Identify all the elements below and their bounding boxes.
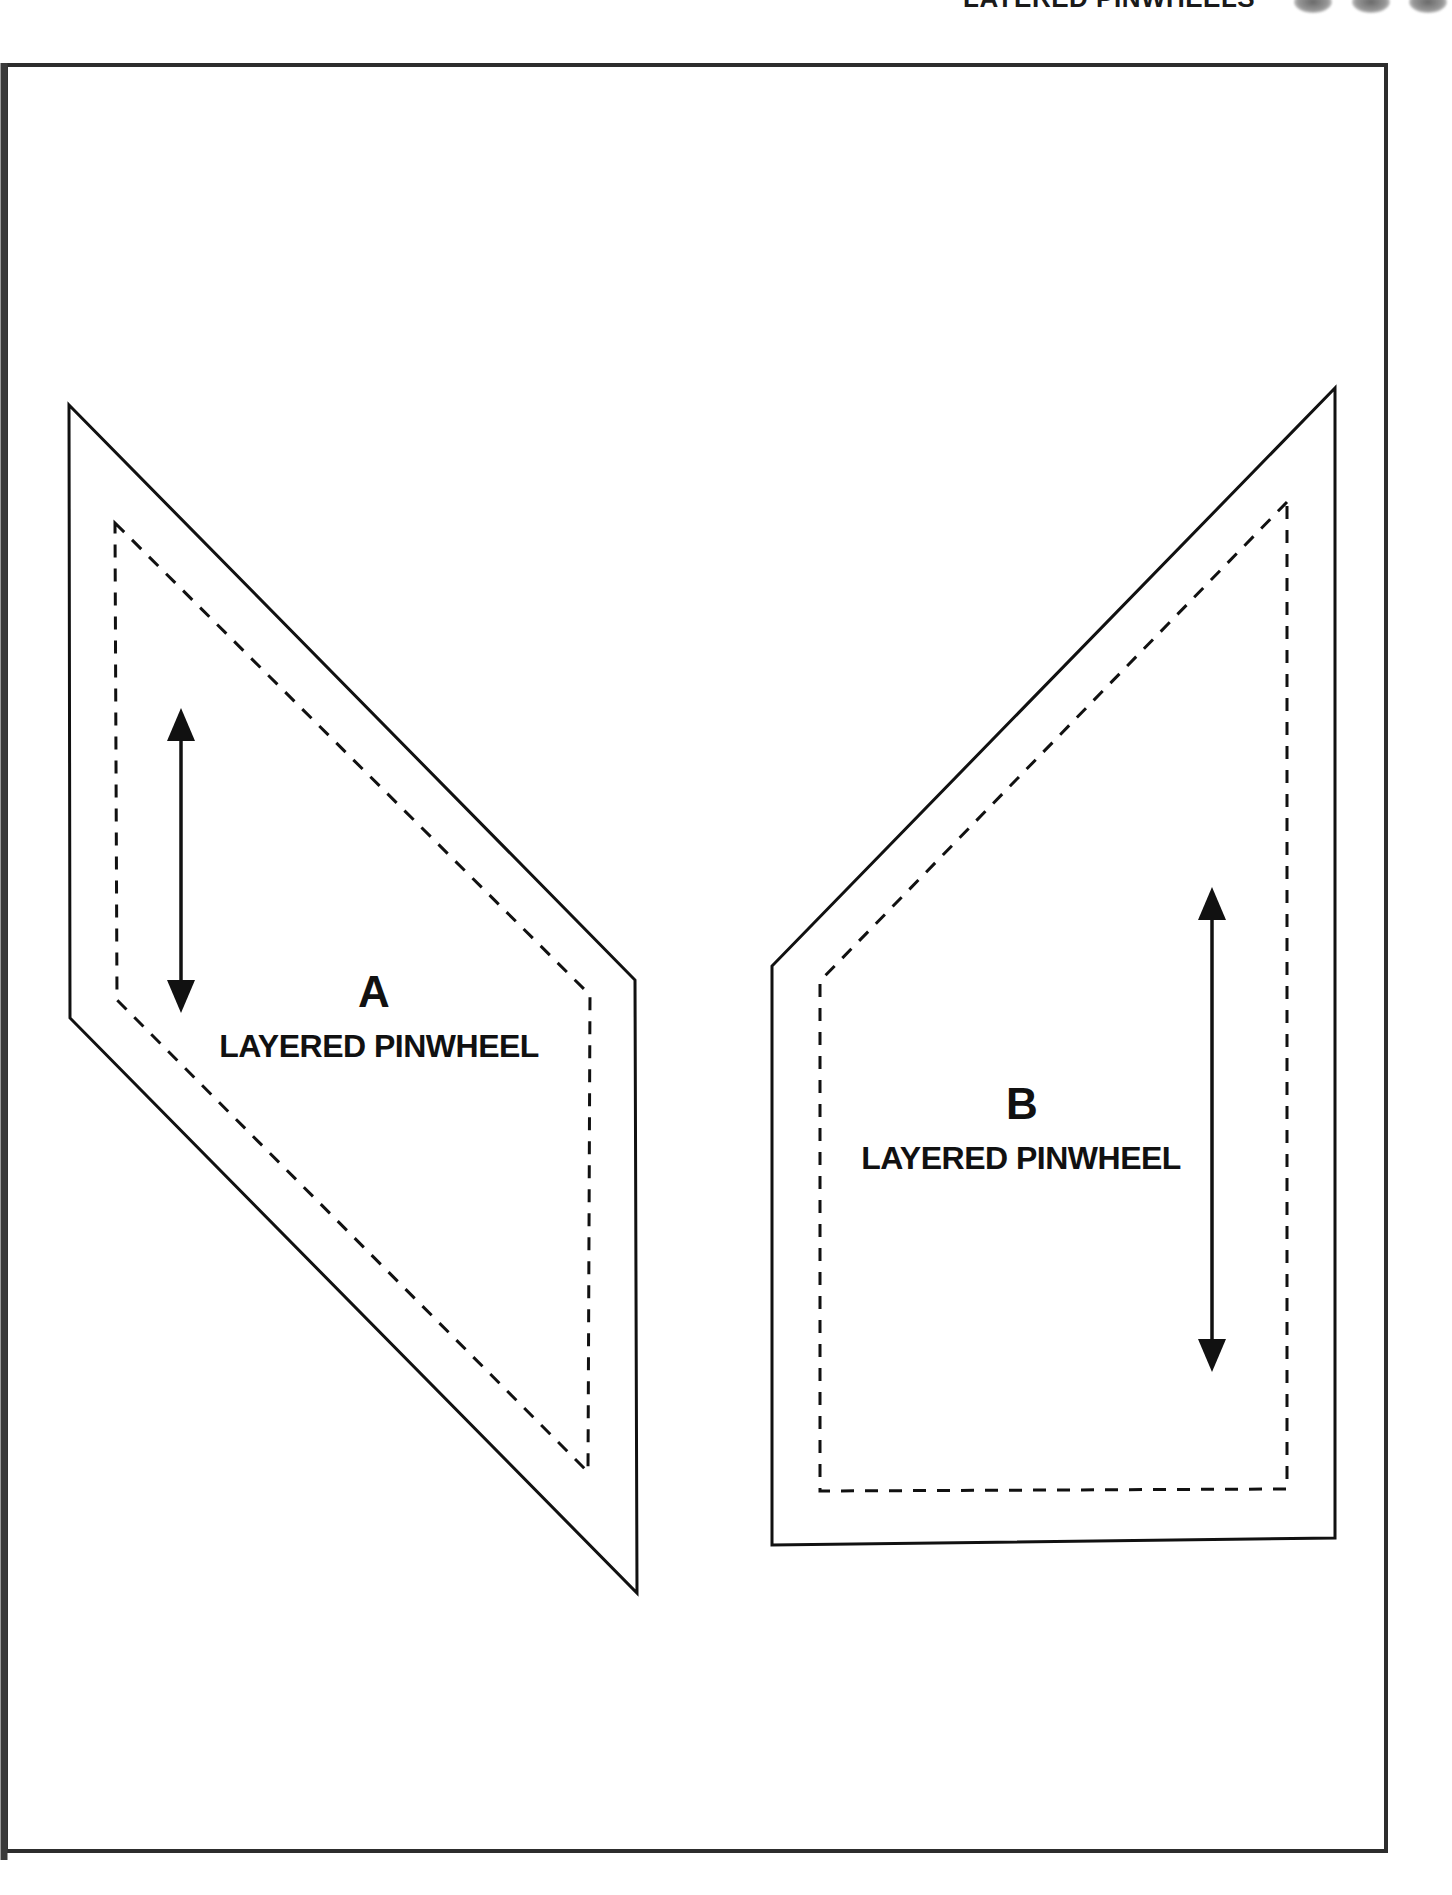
- template-a-grainline-arrow-icon: [167, 708, 195, 1013]
- template-b-grainline-arrow-icon: [1198, 887, 1226, 1372]
- template-a-name-label: LAYERED PINWHEEL: [219, 1028, 539, 1065]
- scanned-page: LAYERED PINWHEELS A LAYERED PINWHEEL B L: [0, 0, 1452, 1895]
- template-a-letter-label: A: [358, 967, 390, 1017]
- template-a-cut-line: [69, 405, 637, 1593]
- pattern-templates-diagram: [0, 0, 1452, 1895]
- frame-border: [6, 65, 1386, 1851]
- template-b-cut-line: [772, 388, 1335, 1545]
- template-b-letter-label: B: [1006, 1079, 1038, 1129]
- template-b-name-label: LAYERED PINWHEEL: [861, 1140, 1181, 1177]
